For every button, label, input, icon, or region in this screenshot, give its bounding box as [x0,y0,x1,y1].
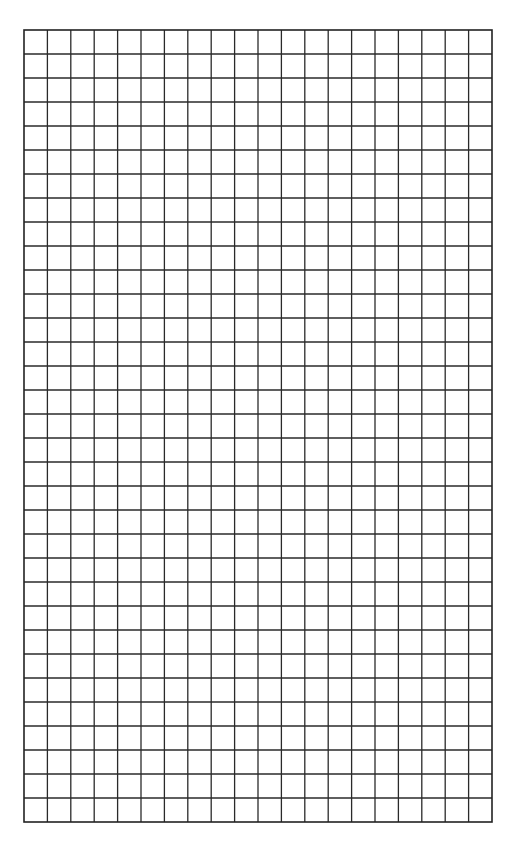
grid [0,0,518,864]
graph-paper-page [0,0,518,864]
grid-lines [24,30,492,822]
